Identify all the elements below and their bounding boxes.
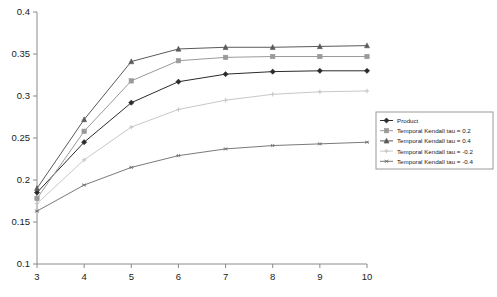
series-layer: [34, 43, 369, 213]
data-point-marker: [176, 79, 181, 84]
x-tick-label: 5: [129, 271, 134, 282]
line-chart: 0.10.150.20.250.30.350.4 345678910 Produ…: [0, 0, 497, 297]
series-4: [35, 141, 369, 213]
x-tick-label: 8: [270, 271, 275, 282]
data-point-marker: [176, 154, 180, 157]
y-tick-label: 0.35: [12, 48, 31, 59]
data-point-marker: [176, 59, 180, 63]
data-point-marker: [129, 166, 133, 169]
legend-label: Temporal Kendall tau = 0.2: [397, 127, 471, 134]
data-point-marker: [82, 129, 86, 133]
data-point-marker: [35, 196, 39, 200]
data-point-marker: [365, 54, 369, 58]
series-1: [35, 54, 369, 200]
legend-label: Temporal Kendall tau = -0.4: [397, 158, 473, 165]
data-point-marker: [271, 92, 275, 96]
y-tick-label: 0.1: [17, 258, 30, 269]
x-tick-label: 9: [317, 271, 322, 282]
y-tick-label: 0.15: [12, 216, 31, 227]
data-point-marker: [223, 72, 228, 77]
x-tick-label: 4: [81, 271, 86, 282]
data-point-marker: [364, 68, 369, 73]
legend-label: Temporal Kendall tau = -0.2: [397, 148, 473, 155]
x-tick-label: 6: [176, 271, 181, 282]
y-tick-label: 0.2: [17, 174, 30, 185]
data-point-marker: [270, 69, 275, 74]
x-tick-label: 7: [223, 271, 228, 282]
data-point-marker: [318, 90, 322, 94]
data-point-marker: [384, 129, 388, 133]
legend-label: Product: [397, 117, 419, 124]
x-axis: 345678910: [34, 264, 372, 282]
data-point-marker: [365, 89, 369, 93]
data-point-marker: [318, 54, 322, 58]
data-point-marker: [318, 142, 322, 145]
x-tick-label: 3: [34, 271, 39, 282]
data-point-marker: [82, 184, 86, 187]
y-tick-label: 0.3: [17, 90, 30, 101]
x-tick-label: 10: [362, 271, 373, 282]
chart-container: 0.10.150.20.250.30.350.4 345678910 Produ…: [0, 0, 497, 297]
data-point-marker: [176, 107, 180, 111]
data-point-marker: [129, 79, 133, 83]
data-point-marker: [223, 147, 227, 150]
chart-legend: ProductTemporal Kendall tau = 0.2Tempora…: [376, 112, 493, 169]
data-point-marker: [271, 54, 275, 58]
y-tick-label: 0.25: [12, 132, 31, 143]
data-point-marker: [223, 98, 227, 102]
y-axis: 0.10.150.20.250.30.350.4: [12, 6, 38, 269]
legend-label: Temporal Kendall tau = 0.4: [397, 137, 471, 144]
data-point-marker: [365, 141, 369, 144]
data-point-marker: [223, 55, 227, 59]
series-3: [35, 89, 369, 206]
data-point-marker: [317, 68, 322, 73]
series-2: [35, 43, 370, 191]
y-tick-label: 0.4: [17, 6, 30, 17]
data-point-marker: [271, 144, 275, 147]
